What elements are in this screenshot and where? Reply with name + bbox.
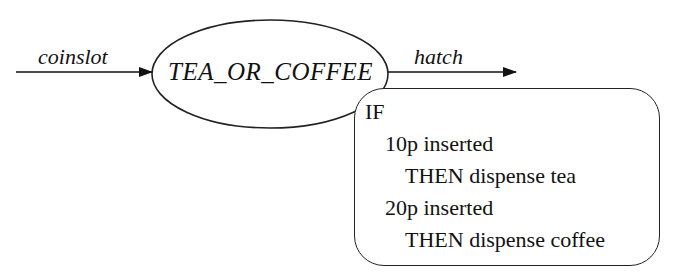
annotation-line-condition-1: 10p inserted	[385, 131, 493, 157]
annotation-line-if: IF	[365, 99, 385, 125]
annotation-box: IF 10p inserted THEN dispense tea 20p in…	[354, 88, 660, 266]
annotation-line-action-1: THEN dispense tea	[405, 163, 576, 189]
process-label: TEA_OR_COFFEE	[168, 58, 373, 86]
annotation-line-condition-2: 20p inserted	[385, 195, 493, 221]
coinslot-label: coinslot	[38, 44, 108, 70]
hatch-label: hatch	[414, 44, 463, 70]
annotation-line-action-2: THEN dispense coffee	[405, 227, 605, 253]
